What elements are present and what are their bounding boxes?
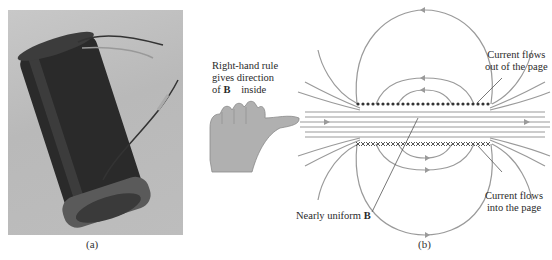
- rhr-prefix: of: [212, 84, 223, 95]
- right-hand-rule-label: Right-hand rule gives direction of B⃗ in…: [212, 60, 278, 96]
- uniform-prefix: Nearly uniform: [296, 210, 364, 221]
- current-in-line2: into the page: [485, 202, 543, 214]
- current-out-label: Current flows out of the page: [485, 49, 548, 73]
- rhr-suffix: inside: [239, 84, 267, 95]
- nearly-uniform-b-label: Nearly uniform B⃗: [296, 210, 379, 222]
- right-hand-rule-line2: gives direction: [212, 72, 278, 84]
- right-hand-rule-line1: Right-hand rule: [212, 60, 278, 72]
- right-hand-rule-line3: of B⃗ inside: [212, 84, 278, 96]
- current-out-line2: out of the page: [485, 61, 548, 73]
- current-out-line1: Current flows: [485, 49, 548, 61]
- right-hand-icon: [210, 101, 299, 172]
- b-field-symbol: B⃗: [364, 210, 379, 221]
- current-in-line1: Current flows: [485, 190, 543, 202]
- field-lines-diagram: [0, 0, 552, 260]
- caption-b: (b): [418, 238, 431, 250]
- b-field-symbol: B⃗: [223, 84, 238, 95]
- current-in-label: Current flows into the page: [485, 190, 543, 214]
